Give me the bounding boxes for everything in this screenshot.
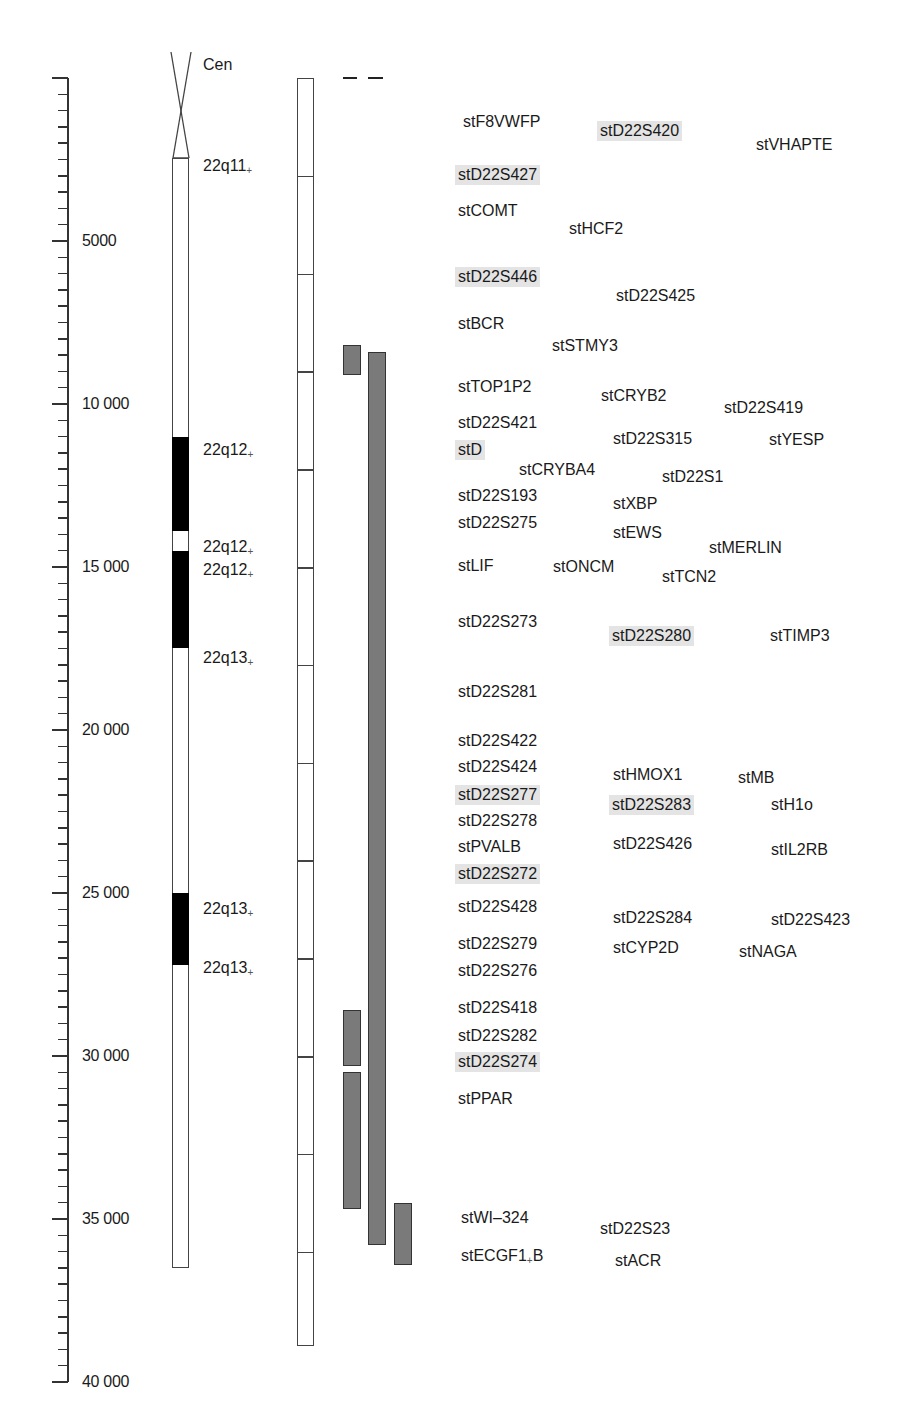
minor-tick [58,159,68,161]
minor-tick [58,501,68,503]
marker-label: stIL2RB [768,840,831,860]
scale-label: 25 000 [82,884,129,902]
minor-tick [58,94,68,96]
marker-label: stD22S276 [455,961,540,981]
minor-tick [58,420,68,422]
minor-tick [58,713,68,715]
marker-label: stD [455,440,485,460]
marker-label: stLIF [455,556,497,576]
marker-label: stMB [735,768,777,788]
chromosome-body [172,158,189,1268]
minor-tick [58,1332,68,1334]
marker-label: stD22S1 [659,467,726,487]
dark-band [172,551,189,649]
minor-tick [58,191,68,193]
minor-tick [58,322,68,324]
minor-tick [58,126,68,128]
marker-label: stBCR [455,314,507,334]
marker-label: stD22S427 [455,165,540,185]
marker-label: stD22S419 [721,398,806,418]
segment-divider [297,958,314,960]
marker-label: stD22S278 [455,811,540,831]
minor-tick [58,273,68,275]
minor-tick [58,1267,68,1269]
dark-band [172,437,189,532]
contig-bar [343,345,361,374]
minor-tick [58,925,68,927]
band-label: 22q11+ [203,157,252,176]
minor-tick [58,224,68,226]
marker-label: stD22S315 [610,429,695,449]
marker-label: stF8VWFP [460,112,543,132]
minor-tick [58,794,68,796]
minor-tick [58,1300,68,1302]
marker-label: stNAGA [736,942,800,962]
minor-tick [58,354,68,356]
segment-divider [297,274,314,276]
minor-tick [58,1006,68,1008]
marker-label: stD22S277 [455,785,540,805]
marker-label: stD22S418 [455,998,540,1018]
marker-label: stPVALB [455,837,524,857]
marker-label: stD22S274 [455,1052,540,1072]
marker-label: stD22S275 [455,513,540,533]
band-label: 22q13+ [203,958,253,977]
marker-label: stCRYBA4 [516,460,598,480]
minor-tick [58,142,68,144]
minor-tick [58,631,68,633]
marker-label: stWI–324 [458,1208,532,1228]
minor-tick [58,338,68,340]
marker-label: stACR [612,1251,664,1271]
major-tick [52,1055,68,1057]
minor-tick [58,1202,68,1204]
marker-label: stD22S421 [455,413,540,433]
minor-tick [58,1120,68,1122]
marker-label: stVHAPTE [753,135,835,155]
minor-tick [58,957,68,959]
minor-tick [58,175,68,177]
major-tick [52,566,68,568]
minor-tick [58,1169,68,1171]
marker-label: stD22S272 [455,864,540,884]
dash-mark [368,77,383,79]
marker-label: stH1o [768,795,816,815]
major-tick [52,729,68,731]
minor-tick [58,468,68,470]
scale-label: 30 000 [82,1047,129,1065]
minor-tick [58,305,68,307]
scale-label: 15 000 [82,558,129,576]
minor-tick [58,1186,68,1188]
minor-tick [58,1235,68,1237]
scale-label: 35 000 [82,1210,129,1228]
segment-divider [297,567,314,569]
marker-label: stCRYB2 [598,386,670,406]
band-label: 22q12+ [203,561,253,580]
marker-label: stD22S420 [597,121,682,141]
minor-tick [58,371,68,373]
segment-divider [297,1252,314,1254]
minor-tick [58,534,68,536]
minor-tick [58,257,68,259]
marker-label: stTCN2 [659,567,719,587]
marker-label: stD22S273 [455,612,540,632]
minor-tick [58,550,68,552]
marker-label: stSTMY3 [549,336,621,356]
major-tick [52,1381,68,1383]
scale-label: 10 000 [82,395,129,413]
scale-label: 20 000 [82,721,129,739]
minor-tick [58,208,68,210]
minor-tick [58,664,68,666]
band-label: 22q13+ [203,900,253,919]
marker-label: stCYP2D [610,938,682,958]
marker-label: stD22S423 [768,910,853,930]
marker-label: stMERLIN [706,538,785,558]
segment-divider [297,665,314,667]
minor-tick [58,599,68,601]
minor-tick [58,811,68,813]
centromere-icon [168,50,194,162]
minor-tick [58,680,68,682]
minor-tick [58,990,68,992]
scale-label: 40 000 [82,1373,129,1391]
marker-label: stD22S23 [597,1219,673,1239]
marker-label: stHMOX1 [610,765,685,785]
